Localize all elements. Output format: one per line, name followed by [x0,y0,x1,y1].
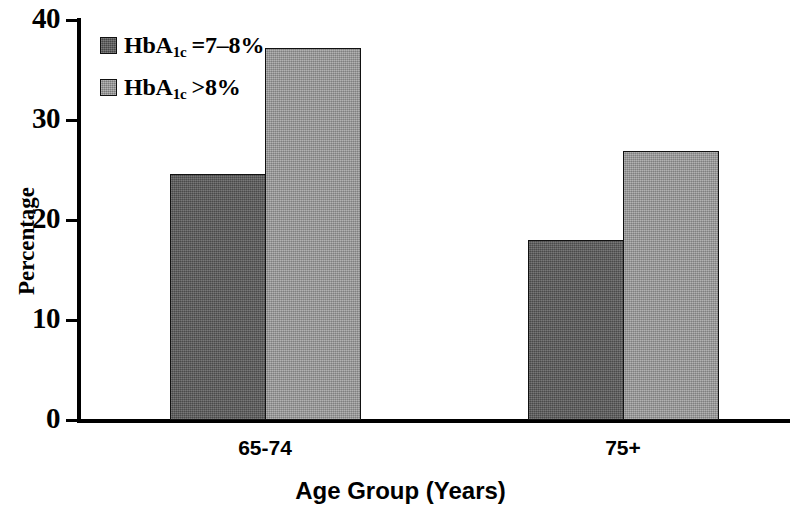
legend: HbA1c=7–8% HbA1c>8% [100,30,264,114]
x-axis-tick-label: 65-74 [175,436,355,460]
legend-label-operator: =7–8% [192,32,265,58]
y-axis-tick [66,219,77,222]
legend-item-label: HbA1c=7–8% [124,32,264,59]
legend-item-label: HbA1c>8% [124,74,241,101]
legend-label-operator: >8% [192,74,241,100]
legend-swatch-icon [100,37,117,54]
legend-label-subscript: 1c [173,44,187,60]
legend-label-subscript: 1c [173,86,187,102]
chart-figure: 403020100 Percentage 65-7475+ Age Group … [0,0,801,511]
y-axis-tick [66,319,77,322]
legend-label-base: HbA [124,74,173,100]
y-axis-tick [66,19,77,22]
bar [528,240,624,420]
legend-swatch-icon [100,79,117,96]
legend-item: HbA1c>8% [100,72,264,102]
y-axis-tick [66,119,77,122]
y-axis-tick-label: 0 [0,404,60,433]
legend-item: HbA1c=7–8% [100,30,264,60]
bar [623,151,719,420]
y-axis-title: Percentage [14,161,40,321]
x-axis-title: Age Group (Years) [0,477,801,505]
y-axis-tick-label: 40 [0,4,60,33]
y-axis-line [77,18,81,422]
y-axis-tick [66,419,77,422]
bar [265,48,361,420]
x-axis-tick-label: 75+ [533,436,713,460]
y-axis-tick-label: 30 [0,104,60,133]
legend-label-base: HbA [124,32,173,58]
bar [170,174,266,420]
